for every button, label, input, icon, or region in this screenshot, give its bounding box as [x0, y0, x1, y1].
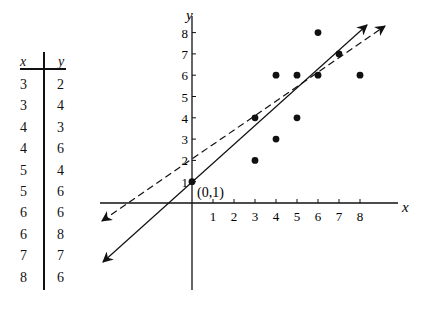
- svg-text:7: 7: [336, 209, 343, 224]
- svg-text:8: 8: [182, 26, 189, 41]
- data-point: [315, 72, 322, 79]
- svg-text:5: 5: [294, 209, 301, 224]
- svg-text:6: 6: [315, 209, 322, 224]
- data-point: [294, 72, 301, 79]
- data-point: [357, 72, 364, 79]
- svg-text:3: 3: [182, 132, 189, 147]
- data-point: [315, 29, 322, 36]
- svg-text:3: 3: [252, 209, 259, 224]
- data-point: [189, 178, 196, 185]
- data-point: [252, 157, 259, 164]
- svg-text:5: 5: [182, 90, 189, 105]
- origin-point-label: (0,1): [197, 185, 224, 201]
- x-axis-label: x: [401, 199, 409, 215]
- svg-text:1: 1: [182, 175, 189, 190]
- svg-text:4: 4: [182, 111, 189, 126]
- y-axis-label: y: [184, 7, 193, 23]
- svg-text:2: 2: [182, 153, 189, 168]
- dashed-line: [102, 26, 385, 221]
- axes: 1234567812345678: [100, 16, 398, 290]
- data-point: [294, 114, 301, 121]
- svg-text:2: 2: [231, 209, 238, 224]
- svg-text:7: 7: [182, 47, 189, 62]
- fit-lines: [102, 25, 385, 262]
- scatter-plot: 1234567812345678 x y (0,1): [0, 0, 432, 309]
- svg-text:1: 1: [210, 209, 217, 224]
- data-point: [336, 51, 343, 58]
- svg-text:6: 6: [182, 68, 189, 83]
- svg-text:4: 4: [273, 209, 280, 224]
- data-point: [273, 72, 280, 79]
- data-point: [252, 114, 259, 121]
- data-point: [273, 136, 280, 143]
- solid-line: [103, 25, 367, 262]
- svg-text:8: 8: [357, 209, 364, 224]
